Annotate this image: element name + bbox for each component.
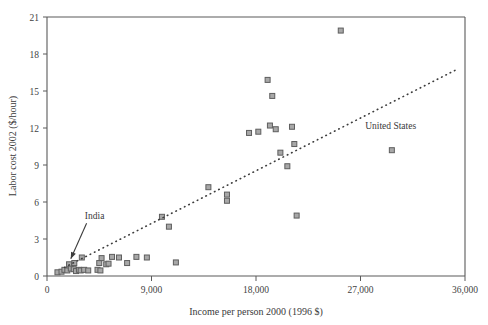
data-point — [173, 260, 178, 265]
y-tick-3: 3 — [34, 235, 47, 245]
data-point — [338, 28, 343, 33]
y-tick-12: 12 — [30, 124, 48, 134]
point-annotation-label: India — [85, 211, 105, 221]
y-tick-label: 21 — [30, 13, 40, 23]
data-point — [273, 127, 278, 132]
data-point — [247, 130, 252, 135]
data-point — [265, 77, 270, 82]
x-tick-9000: 9,000 — [141, 276, 163, 295]
y-tick-label: 15 — [30, 87, 40, 97]
x-tick-label: 27,000 — [347, 285, 373, 295]
x-tick-label: 9,000 — [141, 285, 163, 295]
data-point — [389, 148, 394, 153]
data-point — [278, 150, 283, 155]
y-tick-15: 15 — [30, 87, 48, 97]
x-tick-27000: 27,000 — [347, 276, 373, 295]
y-axis-title: Labor cost 2002 ($/hour) — [7, 96, 19, 196]
y-tick-9: 9 — [34, 161, 47, 171]
annotations-layer: IndiaUnited States — [71, 121, 417, 259]
data-point — [134, 254, 139, 259]
y-tick-label: 0 — [34, 272, 39, 282]
chart-canvas: 0 3 6 9 12 15 — [0, 0, 488, 325]
y-tick-0: 0 — [34, 272, 47, 282]
data-point — [270, 93, 275, 98]
data-point — [224, 192, 229, 197]
data-point — [99, 256, 104, 261]
y-tick-18: 18 — [30, 50, 48, 60]
data-point — [267, 123, 272, 128]
y-tick-label: 3 — [34, 235, 39, 245]
annotation-arrowhead — [71, 252, 76, 259]
x-tick-label: 0 — [45, 285, 50, 295]
plot-frame — [47, 17, 465, 276]
data-point — [256, 129, 261, 134]
data-point — [116, 255, 121, 260]
data-point — [97, 261, 102, 266]
trendline — [64, 70, 455, 267]
data-points-layer — [55, 28, 394, 275]
data-point — [285, 164, 290, 169]
data-point — [224, 198, 229, 203]
x-axis-ticks: 0 9,000 18,000 27,000 36,000 — [45, 276, 479, 295]
x-tick-label: 18,000 — [243, 285, 269, 295]
data-point — [289, 124, 294, 129]
y-tick-21: 21 — [30, 13, 48, 23]
x-tick-label: 36,000 — [452, 285, 478, 295]
data-point — [86, 268, 91, 273]
y-tick-6: 6 — [34, 198, 47, 208]
x-tick-36000: 36,000 — [452, 276, 478, 295]
data-point — [166, 224, 171, 229]
x-tick-18000: 18,000 — [243, 276, 269, 295]
data-point — [206, 185, 211, 190]
data-point — [98, 268, 103, 273]
y-tick-label: 9 — [34, 161, 39, 171]
x-axis-title: Income per person 2000 (1996 $) — [189, 306, 323, 318]
data-point — [110, 254, 115, 259]
data-point — [125, 261, 130, 266]
data-point — [144, 255, 149, 260]
x-tick-0: 0 — [45, 276, 50, 295]
trendline-layer — [64, 70, 455, 267]
y-tick-label: 6 — [34, 198, 39, 208]
y-axis-ticks: 0 3 6 9 12 15 — [30, 13, 48, 282]
y-tick-label: 12 — [30, 124, 40, 134]
data-point — [106, 261, 111, 266]
y-tick-label: 18 — [30, 50, 40, 60]
data-point — [292, 142, 297, 147]
point-annotation-label: United States — [365, 121, 416, 131]
data-point — [294, 213, 299, 218]
scatter-chart-figure: 0 3 6 9 12 15 — [0, 0, 488, 325]
